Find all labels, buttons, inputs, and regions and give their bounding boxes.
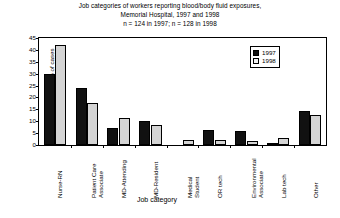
x-tick-mark-6 <box>230 145 231 148</box>
bar-1997-nurse-rn <box>44 74 55 145</box>
x-tick-label-line: Medical <box>186 146 193 198</box>
bar-1997-environmental-associate <box>235 131 246 145</box>
x-tick-label-line: MD-Attending <box>120 146 127 198</box>
x-tick-label-line: Associate <box>257 146 264 198</box>
x-tick-label-nurse-rn: Nurse-RN <box>56 146 63 198</box>
bar-1998-patient-care-associate <box>87 103 98 145</box>
bars-layer <box>39 38 326 145</box>
y-tick-label-40: 40 <box>29 47 36 53</box>
x-tick-label-environmental-associate: EnvironmentalAssociate <box>250 146 264 198</box>
plot-area: % of cases 051015202530354045 1997 1998 <box>38 37 327 146</box>
x-tick-label-line: Environmental <box>250 146 257 198</box>
bar-1998-other <box>310 115 321 145</box>
bar-1998-md-attending <box>119 118 130 145</box>
bar-1998-environmental-associate <box>247 141 258 145</box>
y-tick-label-30: 30 <box>29 71 36 77</box>
chart-title-line-3: n = 124 in 1997; n = 128 in 1998 <box>0 19 340 28</box>
x-tick-label-medical-student: MedicalStudent <box>186 146 200 198</box>
x-tick-mark-8 <box>294 145 295 148</box>
x-tick-label-other: Other <box>312 146 319 198</box>
y-tick-label-10: 10 <box>29 118 36 124</box>
legend-swatch-icon-1997 <box>253 50 259 56</box>
bar-1997-other <box>299 111 310 145</box>
chart-title: Job categories of workers reporting bloo… <box>0 1 340 29</box>
x-tick-label-line: Other <box>312 146 319 198</box>
bar-1998-medical-student <box>183 140 194 145</box>
y-tick-label-35: 35 <box>29 59 36 65</box>
x-tick-label-line: MD-Resident <box>152 146 159 198</box>
chart-title-line-2: Memorial Hospital, 1997 and 1998 <box>0 10 340 19</box>
x-tick-label-line: OR tech <box>216 146 223 198</box>
x-axis-title: Job category <box>38 196 276 203</box>
x-tick-label-or-tech: OR tech <box>216 146 223 198</box>
x-tick-label-md-resident: MD-Resident <box>152 146 159 198</box>
x-axis-labels: Nurse-RNPatient CareAssociateMD-Attendin… <box>38 149 327 201</box>
legend-label-1997: 1997 <box>262 50 276 56</box>
x-tick-label-md-attending: MD-Attending <box>120 146 127 198</box>
x-tick-mark-4 <box>167 145 168 148</box>
x-tick-label-line: Lab tech <box>280 146 287 198</box>
bar-1997-lab-tech <box>267 143 278 145</box>
x-tick-mark-3 <box>135 145 136 148</box>
bar-1997-md-resident <box>139 121 150 145</box>
bar-1998-or-tech <box>215 140 226 145</box>
chart-figure: Job categories of workers reporting bloo… <box>0 0 340 218</box>
bar-1997-patient-care-associate <box>76 88 87 145</box>
bar-1998-md-resident <box>151 125 162 145</box>
chart-title-line-1: Job categories of workers reporting bloo… <box>0 1 340 10</box>
x-tick-label-lab-tech: Lab tech <box>280 146 287 198</box>
x-tick-label-line: Student <box>193 146 200 198</box>
legend-label-1998: 1998 <box>262 58 276 64</box>
x-tick-label-patient-care-associate: Patient CareAssociate <box>90 146 104 198</box>
legend-item-1998: 1998 <box>253 57 276 65</box>
x-tick-label-line: Nurse-RN <box>56 146 63 198</box>
x-tick-mark-1 <box>71 145 72 148</box>
bar-1998-nurse-rn <box>55 45 66 145</box>
bar-1998-lab-tech <box>278 138 289 145</box>
chart-legend: 1997 1998 <box>250 46 280 68</box>
y-tick-label-15: 15 <box>29 106 36 112</box>
bar-1997-or-tech <box>203 130 214 145</box>
x-tick-label-line: Associate <box>97 146 104 198</box>
bar-1997-md-attending <box>107 128 118 145</box>
y-tick-mark-0 <box>36 145 39 146</box>
y-tick-label-45: 45 <box>29 35 36 41</box>
y-tick-label-20: 20 <box>29 94 36 100</box>
y-tick-label-25: 25 <box>29 82 36 88</box>
legend-swatch-icon-1998 <box>253 58 259 64</box>
legend-item-1997: 1997 <box>253 49 276 57</box>
